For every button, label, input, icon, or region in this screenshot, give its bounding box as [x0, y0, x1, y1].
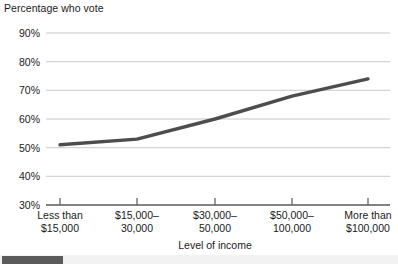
x-axis-title: Level of income	[155, 239, 275, 251]
y-tick-label-50: 50%	[2, 142, 40, 154]
chart-container: Percentage who vote 90% 80% 70% 60% 50% …	[0, 0, 398, 264]
y-tick-label-60: 60%	[2, 113, 40, 125]
horizontal-scrollbar-thumb[interactable]	[2, 256, 63, 264]
y-tick-label-90: 90%	[2, 27, 40, 39]
x-tick-label-line2: 100,000	[249, 222, 335, 235]
x-tick-label-less-than-15000: Less than $15,000	[17, 209, 103, 235]
series-line-percentage-who-vote	[60, 79, 368, 145]
x-tick-label-more-than-100000: More than $100,000	[325, 209, 398, 235]
x-axis-ticks	[60, 198, 368, 205]
y-tick-label-40: 40%	[2, 170, 40, 182]
x-tick-label-line1: $50,000–	[270, 209, 314, 221]
x-tick-label-line1: $30,000–	[193, 209, 237, 221]
x-tick-label-line1: $15,000–	[115, 209, 159, 221]
x-tick-label-line2: 30,000	[94, 222, 180, 235]
y-tick-label-70: 70%	[2, 84, 40, 96]
y-tick-label-80: 80%	[2, 56, 40, 68]
x-tick-label-15000-30000: $15,000– 30,000	[94, 209, 180, 235]
x-tick-label-50000-100000: $50,000– 100,000	[249, 209, 335, 235]
x-tick-label-line2: $15,000	[17, 222, 103, 235]
x-tick-label-line2: 50,000	[172, 222, 258, 235]
x-tick-label-line1: More than	[344, 209, 391, 221]
x-tick-label-line2: $100,000	[325, 222, 398, 235]
x-tick-label-30000-50000: $30,000– 50,000	[172, 209, 258, 235]
x-tick-label-line1: Less than	[37, 209, 83, 221]
gridlines	[46, 33, 390, 176]
horizontal-scrollbar-track[interactable]	[0, 255, 398, 264]
